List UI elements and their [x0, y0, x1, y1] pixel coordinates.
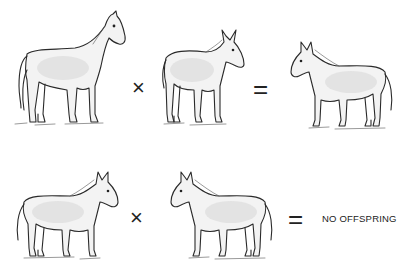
equals-operator: =: [253, 76, 268, 102]
equals-operator: =: [288, 206, 303, 232]
donkey-illustration: [160, 28, 250, 128]
result-label: NO OFFSPRING: [322, 213, 397, 224]
mule-illustration: [12, 170, 124, 260]
mule-illustration: [285, 40, 397, 130]
horse-illustration: [5, 10, 130, 128]
times-operator: ×: [132, 77, 145, 99]
times-operator: ×: [130, 207, 143, 229]
mule-illustration: [165, 170, 277, 260]
